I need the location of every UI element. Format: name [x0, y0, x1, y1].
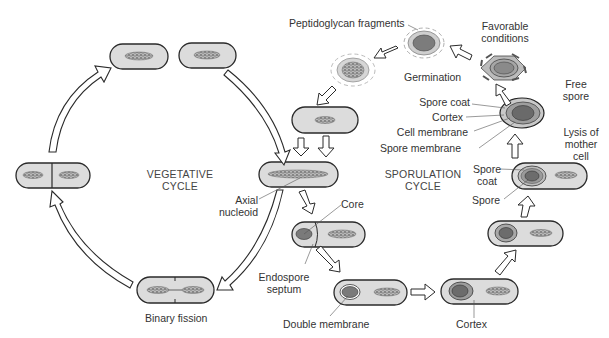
label-peptidoglycan: Peptidoglycan fragments — [289, 17, 405, 29]
label-lysis-3: cell — [558, 150, 604, 162]
label-endospore-septum: Endospore septum — [254, 271, 314, 295]
spore-outgrowth — [331, 54, 375, 86]
nucleoid-icon — [315, 117, 335, 124]
label-free-1: Free — [556, 78, 596, 90]
nucleoid-icon — [486, 287, 510, 295]
arrow-to-favorable — [496, 84, 511, 106]
label-favorable-2: conditions — [465, 32, 545, 44]
nucleoid-icon — [328, 230, 356, 238]
label-free-2: spore — [556, 90, 596, 102]
nucleoid-icon — [147, 287, 169, 294]
nucleoid-icon — [182, 287, 204, 294]
label-core: Core — [341, 198, 364, 210]
cell-coat-forming — [488, 221, 563, 246]
label-favorable: Favorable conditions — [465, 20, 545, 44]
arrow-left-up — [49, 66, 111, 152]
arrow-germ-down — [318, 136, 334, 157]
label-endospore-1: Endospore — [254, 271, 314, 283]
cell-mature-spore — [512, 163, 587, 189]
sporulation-title-line2: CYCLE — [381, 180, 465, 192]
label-favorable-1: Favorable — [465, 20, 545, 32]
arrow-to-coat — [495, 250, 516, 275]
arrow-to-germ — [450, 45, 472, 60]
cell-dividing-left — [16, 163, 90, 188]
arrow-to-outgrowth — [374, 46, 398, 58]
nucleoid-icon — [23, 172, 43, 179]
arrow-to-double — [316, 246, 340, 272]
arrow-fission-to-divided — [50, 191, 133, 288]
label-spore-coat-2-line2: coat — [470, 175, 504, 187]
spore-favorable — [481, 54, 526, 80]
label-spore-coat-2: Spore coat — [470, 163, 504, 187]
cell-septum — [292, 222, 365, 247]
label-free-spore: Free spore — [556, 78, 596, 102]
vegetative-title-line2: CYCLE — [140, 180, 220, 192]
sporulation-title-line1: SPORULATION — [381, 168, 465, 180]
label-axial-nucleoid: Axial nucleoid — [210, 194, 258, 218]
nucleoid-icon — [530, 230, 552, 237]
sporulation-cycle-title: SPORULATION CYCLE — [381, 168, 465, 192]
vegetative-cycle-title: VEGETATIVE CYCLE — [140, 168, 220, 192]
label-binary-fission: Binary fission — [145, 312, 207, 324]
label-spore-coat: Spore coat — [380, 96, 470, 108]
label-spore-membrane: Spore membrane — [360, 142, 461, 154]
nucleoid-icon — [194, 51, 220, 59]
label-axial-1: Axial — [210, 194, 258, 206]
endospore-diagram: VEGETATIVE CYCLE SPORULATION CYCLE Pepti… — [0, 0, 609, 338]
arrow-right-down — [224, 70, 290, 165]
vegetative-title-line1: VEGETATIVE — [140, 168, 220, 180]
label-spore-coat-2-line1: Spore — [470, 163, 504, 175]
label-endospore-2: septum — [254, 283, 314, 295]
cell-top-left — [110, 44, 168, 69]
arrow-to-free — [507, 134, 523, 158]
arrow-to-mature — [518, 196, 535, 217]
label-axial-2: nucleoid — [210, 206, 258, 218]
cell-top-right — [179, 43, 236, 68]
label-lysis-2: mother — [558, 138, 604, 150]
arrow-to-cortex — [411, 284, 435, 300]
cell-double-membrane — [334, 280, 407, 305]
label-germination: Germination — [404, 71, 461, 83]
nucleoid-icon — [125, 52, 153, 60]
label-cortex-top: Cortex — [380, 111, 463, 123]
cell-axial-nucleoid — [259, 162, 338, 187]
arrow-to-septum — [299, 190, 315, 214]
label-spore: Spore — [472, 194, 500, 206]
label-double-membrane: Double membrane — [283, 318, 369, 330]
arrow-vegcell-down — [293, 138, 309, 156]
nucleoid-icon — [555, 172, 577, 179]
spore-germinating — [404, 28, 444, 58]
label-cell-membrane: Cell membrane — [380, 126, 468, 138]
nucleoid-icon — [374, 288, 400, 296]
nucleoid-icon — [268, 170, 328, 178]
label-cortex-bottom: Cortex — [456, 318, 487, 330]
cell-binary-fission — [137, 277, 214, 303]
nucleoid-icon — [59, 172, 79, 179]
cell-germinated — [292, 107, 358, 133]
arrow-to-vegcell — [317, 86, 336, 105]
label-lysis-1: Lysis of — [558, 126, 604, 138]
cell-cortex — [441, 279, 518, 304]
label-lysis: Lysis of mother cell — [558, 126, 604, 162]
